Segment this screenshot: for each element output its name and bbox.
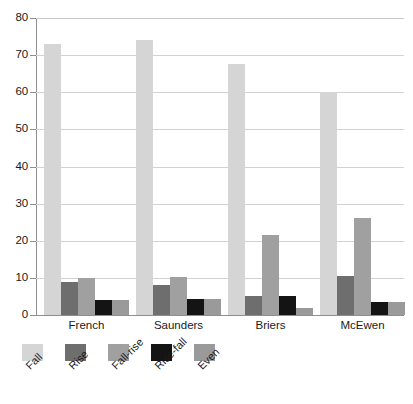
bar[interactable] (228, 64, 245, 315)
bar-group (136, 18, 221, 315)
bar[interactable] (95, 300, 112, 315)
bar[interactable] (153, 285, 170, 315)
bar[interactable] (78, 278, 95, 315)
bar[interactable] (354, 218, 371, 315)
bar[interactable] (262, 235, 279, 315)
y-axis-tick-label: 20 (0, 235, 28, 247)
x-axis-category-label: McEwen (308, 319, 413, 332)
bar[interactable] (320, 92, 337, 315)
bar[interactable] (279, 296, 296, 315)
y-axis-tick-label: 70 (0, 49, 28, 61)
bar-group (228, 18, 313, 315)
y-axis-tick-label: 30 (0, 198, 28, 210)
bar[interactable] (136, 40, 153, 315)
bar[interactable] (245, 296, 262, 315)
bar[interactable] (388, 302, 405, 315)
bar[interactable] (61, 282, 78, 315)
bar[interactable] (170, 277, 187, 315)
y-axis-tick-label: 0 (0, 309, 28, 321)
x-axis-line (36, 315, 404, 316)
y-axis-tick-label: 50 (0, 123, 28, 135)
bar-group (320, 18, 405, 315)
y-axis-tick-label: 10 (0, 272, 28, 284)
bar-group (44, 18, 129, 315)
plot-area (36, 18, 404, 315)
bar[interactable] (112, 300, 129, 315)
bar[interactable] (371, 302, 388, 315)
y-axis-tick-label: 40 (0, 161, 28, 173)
bar[interactable] (44, 44, 61, 315)
grouped-bar-chart: 01020304050607080 FrenchSaundersBriersMc… (0, 0, 413, 404)
bar[interactable] (337, 276, 354, 315)
legend-item[interactable]: Rise-fall (151, 344, 172, 361)
legend-item[interactable]: Rise (65, 344, 86, 361)
y-axis-tick-label: 60 (0, 86, 28, 98)
legend-item[interactable]: Fall (22, 344, 43, 361)
bar[interactable] (187, 299, 204, 315)
chart-legend: FallRiseFall-riseRise-fallEven (22, 344, 402, 402)
legend-item[interactable]: Fall-rise (108, 344, 129, 361)
y-axis-tick-mark (30, 315, 36, 316)
bar[interactable] (296, 308, 313, 315)
legend-item[interactable]: Even (194, 344, 215, 361)
y-axis-tick-label: 80 (0, 12, 28, 24)
bar[interactable] (204, 299, 221, 315)
